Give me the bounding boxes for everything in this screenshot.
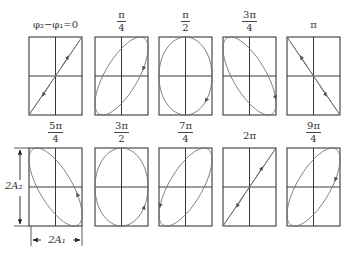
direction-arrow-icon [62, 56, 69, 67]
panel-phase-2π [223, 148, 276, 226]
direction-arrow-icon [275, 96, 276, 99]
panel-phase-3π_2 [95, 148, 148, 226]
phase-denominator: 4 [118, 22, 124, 33]
phase-label: π [284, 20, 344, 30]
panel-phase-7π_4 [159, 148, 212, 226]
phase-denominator: 4 [310, 133, 316, 144]
direction-arrow-icon [256, 167, 263, 178]
phase-numerator: 9π [306, 121, 321, 133]
phase-label: 2π [220, 131, 280, 141]
phase-label: π4 [92, 10, 152, 33]
panel-phase-9π_4 [287, 148, 340, 226]
panel-phase-π [287, 37, 340, 115]
direction-arrow-icon [143, 66, 145, 70]
phase-numerator: π [181, 10, 190, 22]
phase-label: π2 [156, 10, 216, 33]
direction-arrow-icon [335, 177, 337, 181]
phase-label: 3π4 [220, 10, 280, 33]
phase-label: φ₂−φ₁=0 [16, 20, 96, 30]
dimension-label-2a2: 2A₂ [5, 181, 37, 191]
phase-label: 9π4 [284, 121, 344, 144]
phase-numerator: 5π [48, 121, 63, 133]
panel-phase-π_4 [95, 37, 148, 115]
direction-arrow-icon [77, 193, 79, 197]
phase-denominator: 2 [118, 133, 124, 144]
phase-label: 5π4 [26, 121, 86, 144]
phase-label: 7π4 [156, 121, 216, 144]
direction-arrow-icon [301, 56, 308, 67]
direction-arrow-icon [206, 98, 208, 101]
phase-label: 3π2 [92, 121, 152, 144]
phase-numerator: π [117, 10, 126, 22]
phase-denominator: 4 [246, 22, 252, 33]
panel-phase-3π_4 [223, 37, 276, 115]
direction-arrow-icon [43, 85, 50, 96]
direction-arrow-icon [237, 196, 244, 207]
phase-numerator: 3π [242, 10, 257, 22]
direction-arrow-icon [160, 203, 161, 207]
dimension-label-2a1: 2A₁ [41, 235, 73, 245]
phase-numerator: 7π [178, 121, 193, 133]
panel-phase-π_2 [159, 37, 212, 115]
panel-phase-0 [29, 37, 82, 115]
direction-arrow-icon [320, 85, 327, 96]
phase-numerator: 3π [114, 121, 129, 133]
phase-denominator: 2 [182, 22, 188, 33]
phase-denominator: 4 [52, 133, 58, 144]
phase-denominator: 4 [182, 133, 188, 144]
